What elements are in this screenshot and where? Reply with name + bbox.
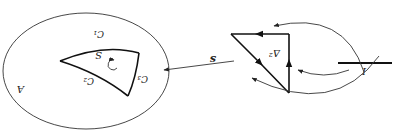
edge-c3 <box>128 53 139 96</box>
diagram-canvas: A C₁ C₂ C₃ S s Δ² I <box>0 0 404 138</box>
orientation-arrow-icon <box>108 60 117 70</box>
edge-c1-label: C₁ <box>94 29 105 39</box>
map-s-line <box>164 61 234 70</box>
map-s-label: s <box>210 53 216 66</box>
simplex-label: Δ² <box>269 48 281 59</box>
edge-c2-label: C₂ <box>83 76 94 86</box>
map-arrow-to-bottom <box>274 23 364 72</box>
region-a-label: A <box>17 84 25 95</box>
simplex-edge-hypotenuse <box>231 34 289 93</box>
map-arrow-to-vertical <box>298 70 349 75</box>
surface-s-label: S <box>95 50 102 61</box>
edge-c3-label: C₃ <box>137 74 148 84</box>
